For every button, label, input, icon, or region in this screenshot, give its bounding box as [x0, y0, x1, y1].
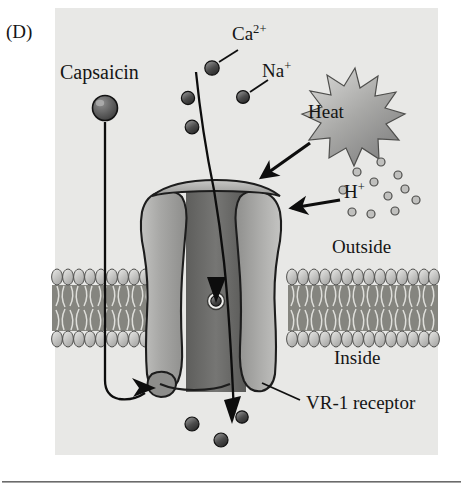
figure-panel-d: (D) Capsaicin Ca2+ Na+ H+ Heat Outside I… — [0, 0, 463, 493]
sodium-charge: + — [284, 59, 291, 73]
sodium-symbol: Na — [262, 60, 284, 81]
heat-label: Heat — [308, 102, 344, 122]
calcium-charge: 2+ — [253, 22, 266, 36]
proton-charge: + — [358, 180, 365, 194]
vr1-receptor-label: VR-1 receptor — [306, 391, 416, 414]
outside-label: Outside — [332, 237, 391, 257]
sodium-ion-label: Na+ — [262, 61, 291, 81]
proton-symbol: H — [344, 181, 358, 202]
capsaicin-highlight — [96, 100, 104, 106]
ion-inside-bottom — [214, 433, 228, 447]
calcium-symbol: Ca — [232, 23, 253, 44]
ion-free-left — [181, 91, 194, 104]
ion-entering — [185, 120, 199, 134]
panel-label: (D) — [6, 22, 32, 42]
ion-sodium — [237, 91, 250, 104]
lipid-bilayer-right — [287, 269, 440, 347]
figure-divider-rule — [2, 481, 461, 483]
capsaicin-sphere — [93, 96, 118, 121]
calcium-ion-label: Ca2+ — [232, 24, 266, 44]
ion-inside-left — [185, 417, 199, 431]
ion-calcium — [205, 61, 219, 75]
inside-label: Inside — [334, 348, 380, 368]
ion-inside-right — [236, 411, 248, 423]
capsaicin-label: Capsaicin — [60, 62, 139, 83]
proton-label: H+ — [344, 182, 365, 202]
